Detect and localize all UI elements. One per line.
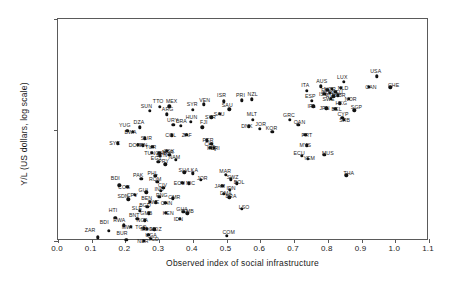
data-point-label: COL: [165, 132, 176, 138]
data-point: [342, 80, 345, 83]
x-axis-label: Observed index of social infrastructure: [57, 258, 428, 268]
data-point-label: CRI: [211, 145, 220, 151]
plot-area: ZARBDIHTIRWABURMWIBDISDNCOGCPVPAKSLEBNTG…: [57, 18, 428, 240]
data-point-label: CHN: [161, 200, 173, 206]
data-point-label: ZAR: [85, 227, 96, 233]
data-point: [240, 99, 243, 102]
data-point-label: CAN: [365, 84, 376, 90]
data-point: [375, 75, 378, 78]
data-point-label: RWA: [113, 217, 125, 223]
data-point-label: PRI: [236, 92, 245, 98]
data-point-label: JPN: [319, 105, 329, 111]
data-point-label: NIC: [186, 180, 195, 186]
data-point-label: YEM: [303, 155, 315, 161]
data-point-label: NGA: [137, 217, 149, 223]
data-point-label: LSO: [239, 204, 250, 210]
data-point-label: JOR: [197, 175, 208, 181]
data-point-label: MEX: [166, 98, 178, 104]
data-point-label: BUR: [116, 230, 127, 236]
data-point: [251, 118, 254, 121]
x-axis-tick: [395, 239, 396, 243]
data-point: [201, 125, 204, 128]
data-point-label: BEL: [332, 106, 342, 112]
data-point-label: TCD: [148, 236, 159, 242]
x-axis-tick-label: 0.4: [186, 244, 198, 253]
x-axis-tick-label: 0.8: [321, 244, 333, 253]
x-axis-tick-label: 0.6: [253, 244, 265, 253]
data-point: [179, 124, 182, 127]
data-point-label: PAK: [133, 172, 143, 178]
data-point-label: SAU: [222, 102, 233, 108]
x-axis-tick-label: 0.3: [152, 244, 164, 253]
data-point-label: HUN: [186, 114, 198, 120]
x-axis-tick: [429, 239, 430, 243]
data-point-label: AUS: [316, 78, 327, 84]
data-point-label: SUR: [141, 135, 152, 141]
data-point: [310, 99, 313, 102]
data-point-label: SYR: [187, 101, 198, 107]
data-point-label: BDI: [100, 219, 109, 225]
data-point: [125, 238, 128, 241]
x-axis-tick: [260, 239, 261, 243]
data-point-label: ZAF: [182, 132, 192, 138]
x-axis-tick-label: 0.1: [85, 244, 97, 253]
data-point: [148, 109, 151, 112]
data-point-label: ISL: [319, 91, 327, 97]
data-point: [258, 127, 261, 130]
data-point-label: JAM: [215, 183, 226, 189]
data-point-label: ITA: [301, 82, 309, 88]
data-point-label: SRB: [339, 117, 350, 123]
x-axis-tick: [227, 239, 228, 243]
data-point-label: PHL: [148, 170, 158, 176]
x-axis-tick-label: 0.7: [287, 244, 299, 253]
data-point-label: NZL: [248, 91, 258, 97]
data-point-label: SGP: [351, 104, 362, 110]
data-point: [138, 125, 141, 128]
data-point-label: CHE: [388, 82, 399, 88]
x-axis-tick: [92, 239, 93, 243]
data-point-label: PRY: [158, 158, 169, 164]
x-axis-tick-label: 1.1: [422, 244, 434, 253]
x-axis-tick-label: 0.5: [220, 244, 232, 253]
data-point: [191, 108, 194, 111]
data-point-label: NER: [137, 238, 148, 244]
data-point-label: MLT: [247, 111, 257, 117]
data-point-label: GMB: [140, 210, 152, 216]
data-point-label: THA: [343, 170, 354, 176]
data-point-label: VEN: [199, 97, 210, 103]
x-axis-tick-label: 0.0: [51, 244, 63, 253]
x-axis-tick: [193, 239, 194, 243]
data-point-label: MUS: [322, 150, 334, 156]
data-point-label: OAN: [294, 119, 306, 125]
data-point: [202, 103, 205, 106]
data-point-label: MYS: [299, 142, 311, 148]
data-point-label: COG: [118, 184, 130, 190]
x-axis-tick-label: 0.9: [355, 244, 367, 253]
data-point-label: BRA: [226, 193, 237, 199]
data-point-label: CIV: [158, 182, 167, 188]
y-axis-tick: [54, 241, 58, 242]
data-point-label: IRL: [307, 103, 315, 109]
data-point-label: SUN: [141, 103, 152, 109]
data-point-label: MAR: [162, 149, 174, 155]
data-point-label: BDI: [111, 175, 120, 181]
data-point-label: ZWE: [148, 199, 160, 205]
data-point-label: TUN: [144, 150, 155, 156]
data-point-label: ARG: [162, 106, 174, 112]
data-point-label: BOL: [234, 179, 245, 185]
data-point-label: KEN: [163, 210, 174, 216]
x-axis-tick: [58, 239, 59, 243]
data-point-label: YUG: [119, 122, 131, 128]
y-axis-tick: [54, 19, 58, 20]
data-point: [189, 120, 192, 123]
data-point-label: JOR: [255, 121, 266, 127]
data-point: [250, 98, 253, 101]
data-point-label: COM: [222, 229, 234, 235]
data-point-label: TUR: [145, 144, 156, 150]
data-point-label: ISR: [217, 92, 226, 98]
data-point-label: PRT: [302, 132, 313, 138]
data-point-label: CPV: [127, 192, 138, 198]
data-point-label: GMB: [182, 208, 194, 214]
data-point-label: BWA: [125, 129, 137, 135]
data-point: [228, 107, 231, 110]
